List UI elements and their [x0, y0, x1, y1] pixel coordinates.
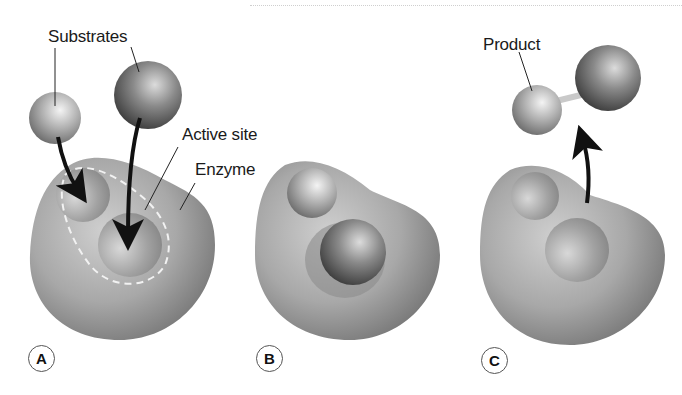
label-substrates: Substrates — [48, 27, 127, 47]
empty-pocket-small — [511, 172, 559, 220]
leader-line-product — [519, 52, 532, 91]
substrate-large-bound — [320, 219, 386, 285]
label-active-site: Active site — [182, 125, 257, 145]
empty-pocket-large — [545, 218, 609, 282]
label-enzyme: Enzyme — [195, 160, 255, 180]
panel-c — [480, 45, 665, 345]
active-site-pocket-small — [56, 168, 110, 222]
panel-label-c: C — [481, 347, 508, 374]
enzyme-diagram — [0, 0, 682, 395]
panel-label-b: B — [256, 345, 283, 372]
panel-a — [29, 47, 215, 340]
panel-label-a: A — [28, 345, 55, 372]
substrate-small-bound — [287, 168, 337, 218]
product-small-sphere — [512, 85, 562, 135]
label-product: Product — [483, 35, 540, 55]
substrate-large — [114, 61, 182, 129]
product-large-sphere — [575, 45, 641, 111]
panel-b — [255, 161, 440, 340]
